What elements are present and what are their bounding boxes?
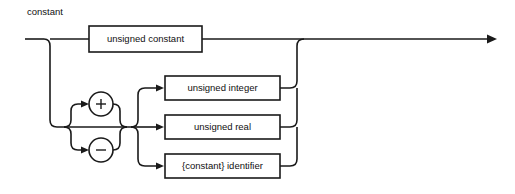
rail-to-unsigned-integer [131,88,157,127]
box-unsigned-constant-label: unsigned constant [107,33,184,44]
merge-rail-constant-identifier [280,127,297,166]
diagram-title: constant [27,6,63,17]
entry-branch-down-rail [44,39,64,127]
arrow-into-minus-icon [81,146,89,153]
box-unsigned-real-label: unsigned real [194,121,251,132]
rail-to-constant-identifier [131,127,157,166]
box-constant-identifier-label: {constant} identifier [182,160,263,171]
minus-merge-rail [113,127,127,150]
merge-rail-unsigned-integer [280,39,304,88]
rail-to-minus-circle [64,127,83,150]
arrow-into-plus-icon [81,100,89,107]
plus-merge-rail [113,104,127,127]
arrow-into-constant-identifier-icon [156,162,164,169]
railroad-diagram-root: constant unsigned constant [0,0,515,194]
arrow-into-unsigned-integer-icon [156,84,164,91]
railroad-diagram-canvas: constant unsigned constant [0,0,515,194]
arrow-into-unsigned-real-icon [156,123,164,130]
merge-rail-unsigned-real [280,88,297,127]
rail-to-plus-circle [64,104,83,127]
arrow-exit-icon [487,35,497,44]
box-unsigned-integer-label: unsigned integer [187,82,257,93]
